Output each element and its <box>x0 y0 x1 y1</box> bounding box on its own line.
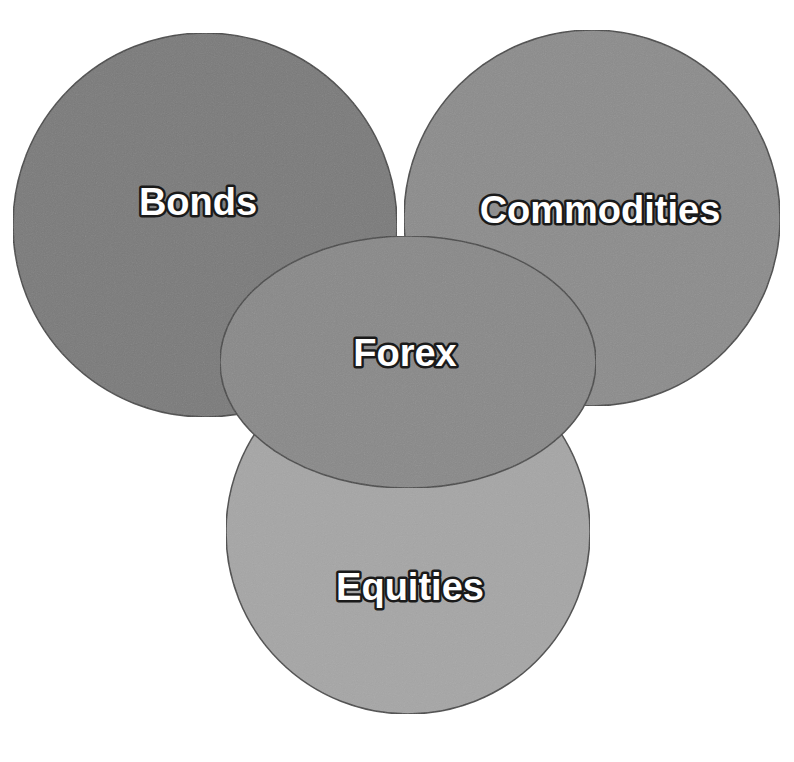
asset-classes-diagram: Bonds Commodities Equities Forex <box>0 0 794 762</box>
forex-label: Forex <box>353 332 456 374</box>
forex-ellipse: Forex <box>220 236 596 488</box>
equities-label: Equities <box>336 566 484 608</box>
bonds-label: Bonds <box>139 181 257 223</box>
commodities-label: Commodities <box>480 189 721 231</box>
